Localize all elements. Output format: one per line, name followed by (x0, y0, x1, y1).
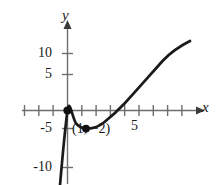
y-tick-label-5: 5 (26, 67, 52, 81)
y-tick-label-minus-10: -10 (12, 160, 52, 174)
origin-point-marker (63, 106, 71, 114)
y-tick-label-minus-5: -5 (18, 121, 52, 135)
minimum-point-label: (1, −2) (72, 122, 110, 136)
x-tick-label-5: 5 (131, 119, 138, 133)
y-tick-label-10: 10 (26, 46, 52, 60)
graph-figure: y x 10 5 -5 -10 5 (1, −2) (0, 0, 223, 185)
y-axis-label: y (62, 8, 69, 23)
x-axis-label: x (202, 100, 209, 115)
plot-area (0, 0, 223, 185)
